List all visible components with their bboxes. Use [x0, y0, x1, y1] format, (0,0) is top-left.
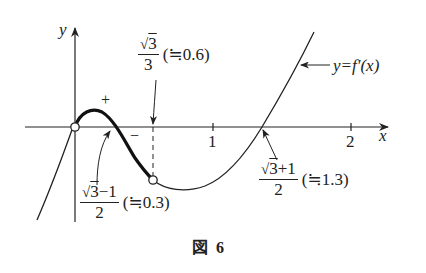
fraction-numerator: √3−1: [80, 183, 119, 203]
radicand: 3: [269, 159, 278, 178]
open-point-origin: [71, 123, 79, 131]
sqrt-symbol: √: [82, 184, 90, 200]
caption-prefix: 図: [192, 239, 208, 256]
sqrt-symbol: √: [140, 36, 148, 52]
arrow-sqrt3-3: [153, 80, 156, 124]
fraction-numerator: √3+1: [259, 160, 298, 180]
fraction-denominator: 2: [274, 180, 283, 200]
annotation-root-small: √3−1 2 (≒0.3): [80, 183, 170, 223]
numerator-rest: −1: [99, 182, 117, 201]
annotation-sqrt3-over-3: √3 3 (≒0.6): [138, 35, 210, 75]
approx-value: (≒0.6): [163, 44, 210, 65]
sign-positive: +: [101, 92, 110, 108]
radicand: 3: [148, 34, 157, 53]
sign-negative: −: [130, 128, 139, 144]
arrow-root-large: [263, 130, 277, 160]
curve-label: y=f′(x): [333, 57, 379, 74]
figure-caption: 図 6: [192, 240, 224, 256]
curve-left: [37, 127, 73, 220]
x-axis-label: x: [379, 127, 387, 144]
fraction-denominator: 2: [95, 203, 104, 223]
curve-label-text: y=f′(x): [333, 56, 379, 75]
numerator-rest: +1: [278, 159, 296, 178]
caption-number: 6: [216, 239, 224, 256]
curve-thick-segment: [75, 110, 153, 180]
radicand: 3: [90, 182, 99, 201]
y-axis-label: y: [59, 21, 67, 38]
approx-value: (≒0.3): [123, 192, 170, 213]
arrow-root-small: [97, 131, 110, 185]
tick-label-1: 1: [208, 133, 217, 150]
sqrt-symbol: √: [261, 161, 269, 177]
fraction-denominator: 3: [144, 55, 153, 75]
fraction-numerator: √3: [138, 35, 159, 55]
approx-value: (≒1.3): [302, 169, 349, 190]
annotation-root-large: √3+1 2 (≒1.3): [259, 160, 349, 200]
tick-label-2: 2: [346, 133, 355, 150]
